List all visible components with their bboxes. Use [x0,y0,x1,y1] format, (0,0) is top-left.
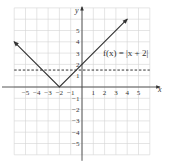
svg-text:−4: −4 [72,129,80,137]
svg-text:−1: −1 [72,95,80,103]
svg-text:4: 4 [76,38,80,46]
svg-text:3: 3 [114,89,118,97]
svg-text:−3: −3 [72,117,80,125]
y-axis-label: y [74,6,79,15]
absolute-value-graph: −5−4−3−2−11234554321−1−2−3−4−5 x y f(x) … [0,0,169,164]
svg-text:−3: −3 [44,89,52,97]
svg-text:−5: −5 [72,140,80,148]
svg-text:5: 5 [76,27,80,35]
svg-text:3: 3 [76,50,80,58]
svg-text:2: 2 [103,89,107,97]
svg-text:4: 4 [125,89,129,97]
function-label: f(x) = |x + 2| [103,48,148,58]
tick-labels: −5−4−3−2−11234554321−1−2−3−4−5 [22,27,141,148]
svg-text:−5: −5 [22,89,30,97]
svg-text:1: 1 [92,89,96,97]
svg-text:−2: −2 [56,89,64,97]
svg-text:−4: −4 [33,89,41,97]
svg-text:5: 5 [137,89,141,97]
x-axis-label: x [157,85,162,94]
svg-text:−2: −2 [72,106,80,114]
svg-text:1: 1 [76,72,80,80]
